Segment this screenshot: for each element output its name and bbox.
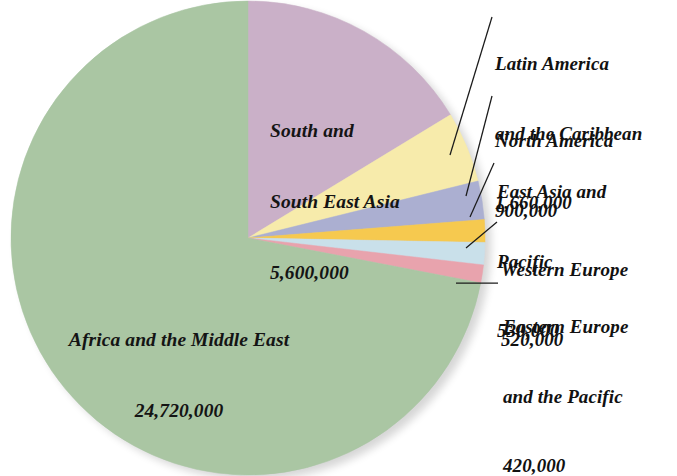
pie-chart: Africa and the Middle East 24,720,000 So… <box>0 0 677 476</box>
slice-label-ssea-line2: South East Asia <box>270 190 400 214</box>
callout-label-eastern-europe-and-the-pacific: Eastern Europe and the Pacific 420,000 <box>503 269 628 476</box>
slice-label-africa-value: 24,720,000 <box>36 399 322 423</box>
slice-label-africa-name: Africa and the Middle East <box>36 328 322 352</box>
slice-label-ssea-value: 5,600,000 <box>270 261 400 285</box>
leader-line-north-america <box>466 96 492 196</box>
callout-easteurope-value: 420,000 <box>503 454 628 476</box>
callout-easteurope-line1: Eastern Europe <box>503 315 628 338</box>
leader-line-latin-america <box>450 17 492 155</box>
slice-label-south-and-south-east-asia: South and South East Asia 5,600,000 <box>270 72 400 332</box>
callout-easteurope-line2: and the Pacific <box>503 385 628 408</box>
slice-label-ssea-line1: South and <box>270 119 400 143</box>
callout-latin-line1: Latin America <box>495 52 642 75</box>
callout-eastasia-line1: East Asia and <box>497 180 606 203</box>
